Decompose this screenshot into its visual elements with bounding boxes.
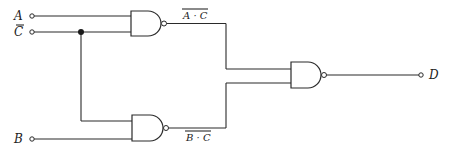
nand1-output-label: A · C — [182, 10, 208, 21]
input-terminal-b — [30, 137, 34, 141]
input-terminal-a — [30, 14, 34, 18]
output-terminal-d — [419, 73, 423, 77]
nand-gate-1-bubble — [162, 21, 167, 26]
logic-circuit-diagram: A C B A · C B · C D — [0, 0, 453, 149]
input-label-c: C — [14, 25, 23, 39]
nand-gate-1 — [131, 11, 161, 36]
input-terminal-c — [30, 30, 34, 34]
nand-gate-3 — [291, 62, 321, 88]
input-label-b: B — [13, 132, 23, 146]
input-label-a: A — [13, 9, 23, 23]
nand-gate-3-bubble — [322, 73, 327, 78]
nand-gate-2-bubble — [164, 126, 169, 131]
nand2-output-label: B · C — [185, 132, 211, 143]
nand-gate-2 — [132, 115, 163, 141]
junction-dot — [78, 29, 84, 35]
output-label-d: D — [428, 68, 439, 82]
